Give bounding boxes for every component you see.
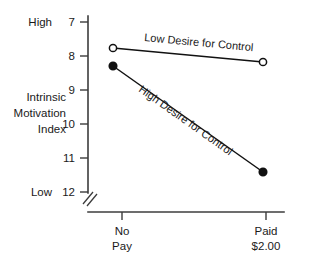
y-axis-low-anchor-label: Low <box>31 186 53 198</box>
x-category-label-nopay-line-1: No <box>115 225 130 237</box>
line-chart: 7 8 9 10 11 12 High Low Intrinsic Motiva… <box>0 0 315 263</box>
y-tick-label-7: 7 <box>69 16 75 28</box>
series-label-low-desire: Low Desire for Control <box>144 31 254 53</box>
x-category-label-paid-line-1: Paid <box>254 225 277 237</box>
chart-figure: 7 8 9 10 11 12 High Low Intrinsic Motiva… <box>0 0 315 263</box>
data-point-low-desire-paid <box>259 58 266 65</box>
y-axis-title-line-3: Index <box>38 123 66 135</box>
y-axis-break-icon <box>83 192 97 206</box>
data-point-low-desire-nopay <box>109 44 116 51</box>
x-category-label-nopay-line-2: Pay <box>112 240 132 252</box>
data-point-high-desire-nopay <box>109 62 117 70</box>
y-axis-high-anchor-label: High <box>28 16 52 28</box>
data-point-high-desire-paid <box>259 168 267 176</box>
y-tick-label-8: 8 <box>69 50 75 62</box>
y-axis-title-line-2: Motivation <box>14 107 66 119</box>
y-tick-label-12: 12 <box>62 186 75 198</box>
series-label-high-desire: High Desire for Control <box>137 83 235 157</box>
y-tick-label-11: 11 <box>63 152 75 164</box>
x-category-label-paid-line-2: $2.00 <box>252 240 281 252</box>
y-tick-label-9: 9 <box>69 84 75 96</box>
y-axis-title-line-1: Intrinsic <box>26 91 66 103</box>
